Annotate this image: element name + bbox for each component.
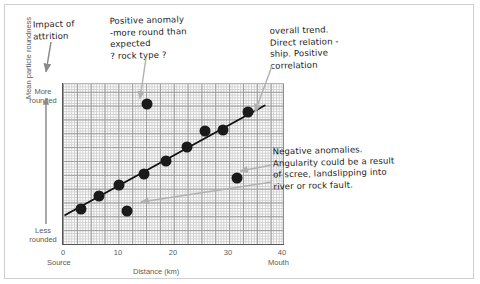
data-point <box>93 191 104 202</box>
annotation-overall-trend: overall trend. Direct relation - ship. P… <box>269 24 339 72</box>
data-point <box>182 141 193 152</box>
y-axis-title: Mean particle roundness <box>24 3 33 113</box>
data-point <box>243 106 254 117</box>
scatter-plot-area <box>62 83 284 245</box>
data-point <box>141 99 152 110</box>
x-tick-20: 20 <box>169 248 177 257</box>
x-tick-0: 0 <box>61 248 65 257</box>
data-point <box>122 205 133 216</box>
x-axis-source-label: Source <box>47 258 71 267</box>
data-point <box>139 169 150 180</box>
data-point <box>232 172 243 183</box>
data-point <box>75 203 86 214</box>
x-tick-40: 40 <box>278 248 286 257</box>
annotation-negative-anomalies: Negative anomalies. Angularity could be … <box>272 144 395 193</box>
x-tick-10: 10 <box>114 248 122 257</box>
data-point <box>200 125 211 136</box>
x-axis-title: Distance (km) <box>133 267 179 276</box>
x-tick-30: 30 <box>224 248 232 257</box>
y-axis-bottom-label: Less rounded <box>25 226 61 244</box>
annotation-attrition: Impact of attrition <box>33 18 75 42</box>
x-axis-mouth-label: Mouth <box>268 258 289 267</box>
data-point <box>113 180 124 191</box>
data-point <box>217 124 228 135</box>
annotation-positive-anomaly: Positive anomaly -more round than expect… <box>109 14 187 62</box>
data-point <box>161 155 172 166</box>
image-frame: More rounded Less rounded Mean particle … <box>4 4 474 279</box>
